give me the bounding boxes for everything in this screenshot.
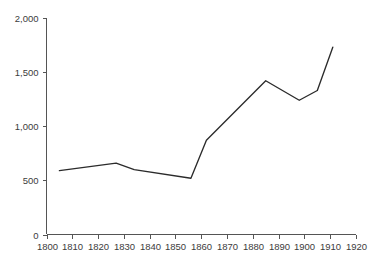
x-tick-label: 1860 bbox=[191, 241, 212, 252]
x-tick-label: 1840 bbox=[140, 241, 161, 252]
x-axis-tick-group: 1800181018201830184018501860187018801890… bbox=[37, 235, 367, 252]
y-tick-label: 1,000 bbox=[15, 121, 39, 132]
x-tick-label: 1870 bbox=[217, 241, 238, 252]
y-tick-label: 500 bbox=[23, 175, 39, 186]
plot-area bbox=[59, 47, 332, 178]
x-tick-label: 1830 bbox=[114, 241, 135, 252]
x-tick-label: 1810 bbox=[62, 241, 83, 252]
x-tick-label: 1880 bbox=[243, 241, 264, 252]
y-tick-label: 2,000 bbox=[15, 13, 39, 24]
line-chart: 05001,0001,5002,000 18001810182018301840… bbox=[0, 0, 376, 268]
y-axis-tick-group: 05001,0001,5002,000 bbox=[15, 13, 47, 241]
chart-canvas: 05001,0001,5002,000 18001810182018301840… bbox=[0, 0, 376, 268]
x-tick-label: 1900 bbox=[294, 241, 315, 252]
y-tick-label: 0 bbox=[33, 230, 38, 241]
x-tick-label: 1910 bbox=[320, 241, 341, 252]
x-axis: 1800181018201830184018501860187018801890… bbox=[37, 235, 367, 252]
x-tick-label: 1850 bbox=[165, 241, 186, 252]
x-tick-label: 1920 bbox=[346, 241, 367, 252]
x-tick-label: 1890 bbox=[269, 241, 290, 252]
y-tick-label: 1,500 bbox=[15, 67, 39, 78]
x-tick-label: 1820 bbox=[88, 241, 109, 252]
x-tick-label: 1800 bbox=[37, 241, 58, 252]
y-axis: 05001,0001,5002,000 bbox=[15, 13, 47, 241]
data-line-series-1 bbox=[59, 47, 332, 178]
